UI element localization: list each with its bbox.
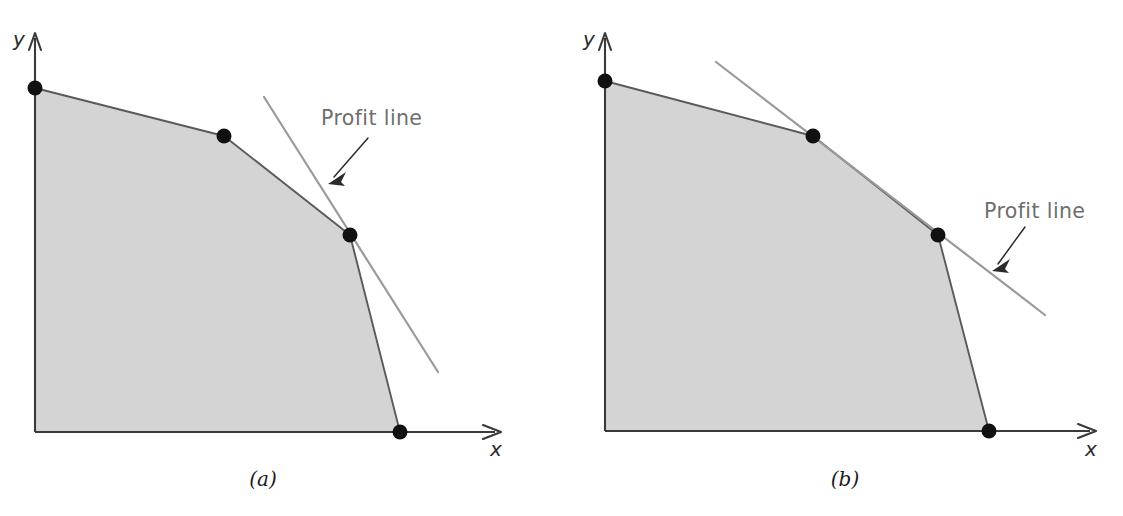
vertex-dot [931, 228, 946, 243]
vertex-dot [393, 425, 408, 440]
vertex-dot [343, 228, 358, 243]
y-axis-label-b: y [582, 27, 596, 51]
panel-caption-a: (a) [249, 467, 277, 491]
panel-a: y x Profit line (a) [12, 27, 502, 491]
x-axis-label-b: x [1084, 437, 1097, 461]
vertex-dot [806, 129, 821, 144]
figure-root: y x Profit line (a) [0, 0, 1123, 516]
figure-canvas: y x Profit line (a) [0, 0, 1123, 516]
vertex-dot [28, 81, 43, 96]
profit-line-label-a: Profit line [321, 106, 422, 130]
vertex-dot [598, 74, 613, 89]
y-axis-label-a: y [12, 27, 26, 51]
panel-caption-b: (b) [831, 467, 859, 491]
x-axis-label-a: x [489, 437, 502, 461]
profit-callout-arrow-b [998, 227, 1025, 264]
feasible-region-b [605, 81, 989, 431]
profit-callout-arrow-a [334, 138, 368, 177]
profit-line-label-b: Profit line [984, 199, 1085, 223]
panel-b: y x Profit line (b) [582, 27, 1097, 491]
vertex-dot [217, 129, 232, 144]
vertex-dot [982, 424, 997, 439]
